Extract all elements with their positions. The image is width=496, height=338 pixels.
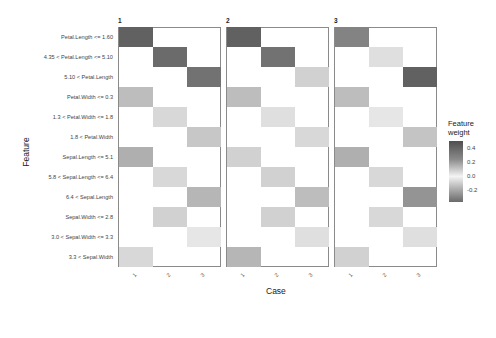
heatmap-cell	[403, 127, 437, 147]
feature-label: Sepal.Width <= 2.8	[65, 213, 113, 221]
feature-label: Sepal.Length <= 5.1	[63, 153, 113, 161]
heatmap-cell	[227, 27, 261, 47]
heatmap-cell	[403, 227, 437, 247]
x-tick-label: 3	[415, 272, 421, 278]
legend-title: Feature weight	[448, 119, 474, 137]
heatmap-cell	[187, 187, 221, 207]
legend-colorbar	[449, 141, 463, 202]
heatmap-cell	[369, 167, 403, 187]
heatmap-cell	[369, 107, 403, 127]
heatmap-cell	[119, 87, 153, 107]
x-axis-title: Case	[266, 286, 286, 296]
heatmap-cell	[261, 47, 295, 67]
legend-title-line2: weight	[448, 128, 470, 137]
heatmap-cell	[295, 127, 329, 147]
x-tick-label: 2	[273, 272, 279, 278]
x-tick-label: 1	[131, 272, 137, 278]
heatmap-cell	[403, 187, 437, 207]
heatmap-cell	[403, 67, 437, 87]
heatmap-cell	[153, 47, 187, 67]
feature-label: 3.3 < Sepal.Width	[69, 253, 113, 261]
facet-label: 3	[334, 17, 338, 24]
legend-tick-label: 0.2	[467, 159, 475, 165]
facet-label: 1	[118, 17, 122, 24]
legend-title-line1: Feature	[448, 119, 474, 128]
x-tick-label: 1	[347, 272, 353, 278]
heatmap-cell	[187, 127, 221, 147]
heatmap-cell	[227, 87, 261, 107]
heatmap-cell	[261, 107, 295, 127]
heatmap-cell	[187, 67, 221, 87]
heatmap-cell	[369, 207, 403, 227]
heatmap-cell	[119, 27, 153, 47]
facet-panel-3	[334, 27, 437, 267]
feature-label: 3.0 < Sepal.Width <= 3.3	[51, 233, 113, 241]
x-tick-label: 3	[199, 272, 205, 278]
heatmap-cell	[335, 27, 369, 47]
x-tick-label: 1	[239, 272, 245, 278]
heatmap-cell	[261, 207, 295, 227]
x-tick-label: 3	[307, 272, 313, 278]
feature-label: 5.8 < Sepal.Length <= 6.4	[48, 173, 113, 181]
heatmap-cell	[295, 187, 329, 207]
heatmap-cell	[295, 67, 329, 87]
heatmap-cell	[335, 147, 369, 167]
facet-label: 2	[226, 17, 230, 24]
heatmap-cell	[119, 247, 153, 267]
heatmap-cell	[119, 147, 153, 167]
heatmap-cell	[153, 107, 187, 127]
heatmap-cell	[227, 247, 261, 267]
heatmap-cell	[369, 47, 403, 67]
feature-label: 4.35 < Petal.Length <= 5.10	[44, 53, 113, 61]
feature-label: 5.10 < Petal.Length	[64, 73, 113, 81]
feature-label: 6.4 < Sepal.Length	[66, 193, 113, 201]
heatmap-cell	[187, 227, 221, 247]
x-tick-label: 2	[165, 272, 171, 278]
heatmap-cell	[261, 167, 295, 187]
heatmap-cell	[153, 207, 187, 227]
heatmap-cell	[227, 147, 261, 167]
feature-label: Petal.Length <= 1.60	[61, 33, 113, 41]
feature-label: 1.3 < Petal.Width <= 1.8	[53, 113, 113, 121]
y-axis-title: Feature	[21, 132, 31, 172]
heatmap-cell	[335, 247, 369, 267]
feature-label: 1.8 < Petal.Width	[70, 133, 113, 141]
legend-tick-label: 0.4	[467, 145, 475, 151]
feature-label: Petal.Width <= 0.3	[67, 93, 113, 101]
legend-tick-label: -0.2	[467, 187, 477, 193]
facet-panel-1	[118, 27, 221, 267]
facet-panel-2	[226, 27, 329, 267]
heatmap-cell	[335, 87, 369, 107]
heatmap-cell	[153, 167, 187, 187]
x-tick-label: 2	[381, 272, 387, 278]
heatmap-cell	[295, 227, 329, 247]
legend-tick-label: 0.0	[467, 173, 475, 179]
